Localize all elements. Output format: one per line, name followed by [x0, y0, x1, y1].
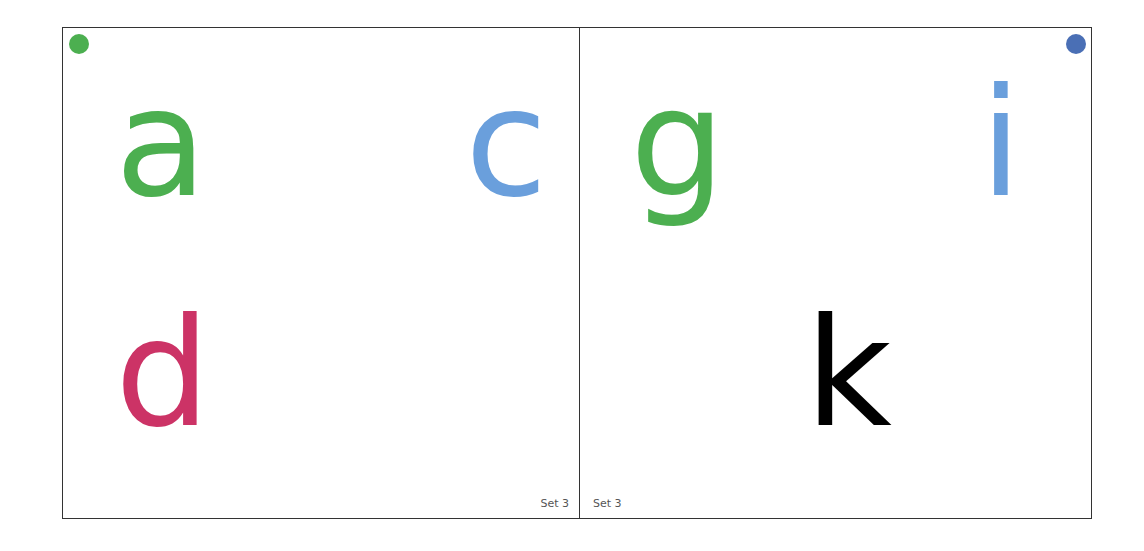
- letter-k: k: [805, 298, 892, 448]
- letter-c: c: [465, 68, 547, 218]
- flashcard-right: g i k Set 3: [579, 27, 1092, 519]
- green-dot-icon: [69, 34, 89, 54]
- letter-d: d: [115, 298, 210, 448]
- letter-g: g: [630, 68, 725, 218]
- letter-i: i: [980, 68, 1022, 218]
- set-label: Set 3: [540, 497, 569, 510]
- flashcard-left: a c d Set 3: [62, 27, 580, 519]
- letter-a: a: [115, 68, 207, 218]
- set-label: Set 3: [593, 497, 622, 510]
- blue-dot-icon: [1066, 34, 1086, 54]
